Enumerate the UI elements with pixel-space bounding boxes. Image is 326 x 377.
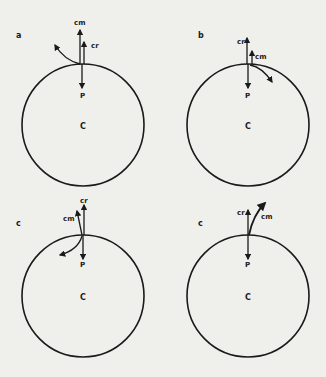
panel-label: c bbox=[16, 219, 21, 228]
cm-label: cm bbox=[261, 213, 272, 221]
diagram-canvas: a C P cm cr b C P cr cm c C P cr cm bbox=[0, 0, 326, 377]
panel-c-left: c C P cr cm bbox=[16, 197, 144, 357]
cm-label: cm bbox=[74, 19, 85, 27]
center-label: C bbox=[245, 293, 251, 302]
cr-label: cr bbox=[91, 42, 99, 50]
center-label: C bbox=[80, 122, 86, 131]
cm-label: cm bbox=[63, 215, 74, 223]
panel-c-right: c C P cr cm bbox=[187, 203, 309, 357]
center-label: C bbox=[80, 293, 86, 302]
panel-label: c bbox=[198, 219, 203, 228]
point-label: P bbox=[80, 92, 85, 100]
cr-label: cr bbox=[80, 197, 88, 205]
panel-label: b bbox=[198, 31, 204, 40]
cm-arrow bbox=[77, 211, 82, 235]
panel-b: b C P cr cm bbox=[187, 31, 309, 186]
point-label: P bbox=[245, 92, 250, 100]
panel-a: a C P cm cr bbox=[16, 19, 144, 186]
cr-label: cr bbox=[237, 209, 245, 217]
cm-label: cm bbox=[255, 53, 266, 61]
point-label: P bbox=[80, 261, 85, 269]
rotation-arrow bbox=[55, 45, 80, 64]
center-label: C bbox=[245, 122, 251, 131]
panel-label: a bbox=[16, 31, 21, 40]
point-label: P bbox=[245, 261, 250, 269]
cr-label: cr bbox=[237, 38, 245, 46]
